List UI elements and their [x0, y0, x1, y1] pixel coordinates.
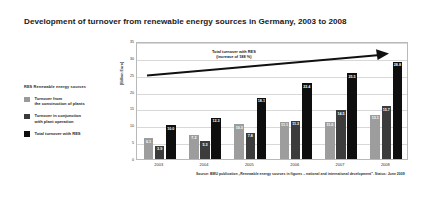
bar-group: 10.37.818.1: [234, 43, 266, 159]
bar: 11.0: [325, 122, 335, 159]
chart-legend: RES Renewable energy sources Turnover fr…: [24, 84, 122, 143]
source-note: Source: BMU publication „Renewable energ…: [196, 172, 405, 176]
bar: 11.1: [280, 122, 290, 159]
bar: 11.3: [291, 121, 301, 159]
bar-value-label: 11.0: [326, 123, 333, 127]
y-axis-tick-label: 20: [116, 91, 134, 95]
bar-value-label: 10.3: [236, 126, 243, 130]
bar: 15.7: [382, 106, 392, 159]
bar-value-label: 7.8: [248, 134, 253, 138]
bar-group: 7.25.312.3: [189, 43, 221, 159]
legend-item-label: Turnover from the construction of plants: [35, 96, 85, 107]
bar-value-label: 5.3: [202, 143, 207, 147]
bar: 7.2: [189, 135, 199, 159]
y-axis-tick-label: 35: [116, 40, 134, 44]
x-axis-tick-label: 2005: [229, 162, 269, 167]
legend-label-line1: Total turnover with RES: [35, 131, 81, 136]
bar-value-label: 11.1: [281, 123, 288, 127]
bar-value-label: 25.5: [348, 75, 355, 79]
bar: 14.5: [336, 110, 346, 159]
bar-value-label: 15.7: [383, 108, 390, 112]
bar-value-label: 22.4: [303, 85, 310, 89]
x-axis-tick-label: 2003: [139, 162, 179, 167]
bar-value-label: 14.5: [337, 112, 344, 116]
black-swatch-icon: [24, 131, 30, 137]
y-axis-tick-label: 5: [116, 141, 134, 145]
legend-label-line1: Turnover in conjunction: [35, 113, 82, 118]
bar-value-label: 12.3: [212, 119, 219, 123]
legend-item-total: Total turnover with RES: [24, 131, 122, 137]
chart-page: Development of turnover from renewable e…: [0, 0, 432, 199]
page-title: Development of turnover from renewable e…: [24, 17, 347, 26]
chart-annotation: Total turnover with RES (increase of 188…: [212, 49, 256, 59]
bar-series-container: 6.13.910.07.25.312.310.37.818.111.111.32…: [137, 43, 407, 159]
light-gray-swatch-icon: [24, 97, 30, 103]
bar: 10.3: [234, 124, 244, 159]
legend-item-label: Total turnover with RES: [35, 131, 81, 136]
bar-value-label: 7.2: [191, 136, 196, 140]
mid-gray-swatch-icon: [24, 114, 30, 120]
bar: 3.9: [155, 146, 165, 159]
x-axis-tick-label: 2007: [320, 162, 360, 167]
legend-label-line2: with plant operation: [35, 119, 74, 124]
bar-value-label: 3.9: [157, 147, 162, 151]
legend-item-label: Turnover in conjunction with plant opera…: [35, 113, 82, 124]
bar: 7.8: [246, 133, 256, 159]
bar: 6.1: [144, 138, 154, 159]
bar: 13.1: [370, 115, 380, 159]
bar-group: 11.111.322.4: [280, 43, 312, 159]
bar-value-label: 18.1: [258, 99, 265, 103]
bar: 18.1: [257, 98, 267, 159]
bar-group: 11.014.525.5: [325, 43, 357, 159]
y-axis-tick-label: 25: [116, 74, 134, 78]
bar-value-label: 11.3: [292, 122, 299, 126]
y-axis-tick-label: 30: [116, 57, 134, 61]
bar: 5.3: [200, 141, 210, 159]
x-axis-tick-label: 2006: [275, 162, 315, 167]
bar: 28.8: [393, 62, 403, 159]
bar-value-label: 10.0: [167, 127, 174, 131]
legend-item-construction: Turnover from the construction of plants: [24, 96, 122, 107]
x-axis-tick-label: 2008: [365, 162, 405, 167]
bar: 10.0: [166, 125, 176, 159]
y-axis-tick-label: 0: [116, 158, 134, 162]
legend-label-line2: the construction of plants: [35, 101, 85, 106]
bar: 12.3: [211, 118, 221, 159]
legend-item-operation: Turnover in conjunction with plant opera…: [24, 113, 122, 124]
bar-value-label: 13.1: [372, 116, 379, 120]
y-axis-tick-label: 15: [116, 107, 134, 111]
legend-header: RES Renewable energy sources: [24, 84, 122, 89]
bar: 22.4: [302, 83, 312, 159]
plot-area: 6.13.910.07.25.312.310.37.818.111.111.32…: [136, 42, 408, 160]
bar-value-label: 28.8: [394, 63, 401, 67]
x-axis-tick-label: 2004: [184, 162, 224, 167]
annotation-line2: (increase of 188 %): [216, 54, 251, 59]
bar-value-label: 6.1: [146, 140, 151, 144]
y-axis-tick-label: 10: [116, 124, 134, 128]
bar-group: 6.13.910.0: [144, 43, 176, 159]
bar-group: 13.115.728.8: [370, 43, 402, 159]
legend-label-line1: Turnover from: [35, 96, 63, 101]
bar: 25.5: [347, 73, 357, 159]
